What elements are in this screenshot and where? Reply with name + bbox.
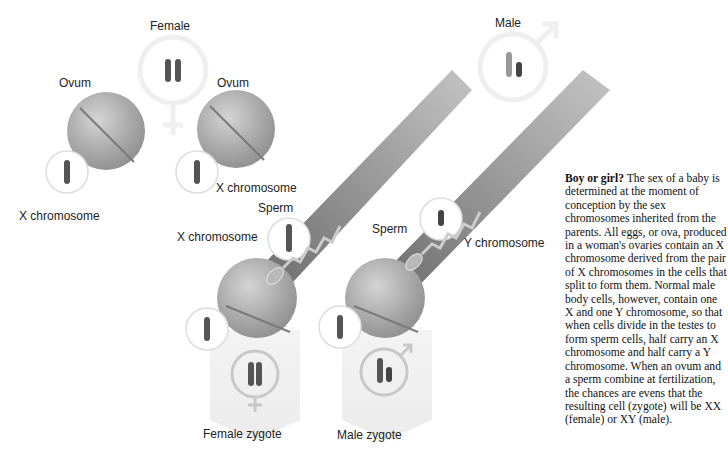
male-symbol-icon — [480, 24, 556, 100]
caption-title: Boy or girl? — [565, 172, 624, 185]
ovum-left — [46, 92, 145, 193]
female-zygote-band — [210, 330, 300, 440]
female-symbol-icon — [140, 37, 206, 135]
ovum-right — [176, 90, 275, 193]
ovum-left-label: Ovum — [59, 76, 91, 90]
y-chromosome-label: Y chromosome — [464, 236, 544, 250]
caption-body: The sex of a baby is determined at the m… — [565, 172, 727, 426]
female-label: Female — [150, 19, 190, 33]
x-chromosome-sperm-label: X chromosome — [177, 230, 258, 244]
male-label: Male — [495, 16, 521, 30]
ovum-right-label: Ovum — [217, 76, 249, 90]
x-chromosome-left-label: X chromosome — [19, 209, 100, 223]
male-zygote-label: Male zygote — [337, 428, 402, 442]
sperm-left-label: Sperm — [258, 201, 293, 215]
sperm-right-label: Sperm — [372, 222, 407, 236]
x-chromosome-right-label: X chromosome — [216, 181, 297, 195]
male-zygote-band — [342, 330, 432, 440]
caption: Boy or girl? The sex of a baby is determ… — [565, 172, 728, 427]
female-zygote-label: Female zygote — [203, 427, 282, 441]
